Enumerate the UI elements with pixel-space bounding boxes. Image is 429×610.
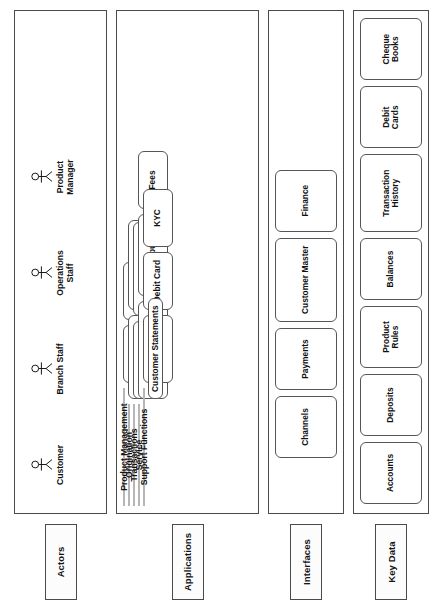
actor-0: Customer <box>31 432 66 498</box>
lane-header-applications: Applications <box>172 524 204 600</box>
actor-label: Operations Staff <box>56 240 75 306</box>
actor-stick-figure-icon <box>31 265 53 282</box>
actor-stick-figure-icon <box>31 361 53 378</box>
key-data-box[interactable]: Deposits <box>360 374 422 436</box>
actor-1: Branch Staff <box>31 336 66 402</box>
actor-stick-figure-icon <box>31 169 53 186</box>
application-group-extra-row: Customer Statements <box>148 18 163 399</box>
application-box[interactable]: Customer Statements <box>148 298 163 399</box>
key-data-box[interactable]: Cheque Books <box>360 18 422 80</box>
interface-box[interactable]: Finance <box>275 170 337 232</box>
key-data-box[interactable]: Balances <box>360 238 422 300</box>
lane-interfaces: Interfaces ChannelsPaymentsCustomer Mast… <box>268 10 344 600</box>
lane-body-applications: Product ManagementAccountsDepositsOrigin… <box>116 10 259 514</box>
actor-2: Operations Staff <box>31 240 75 306</box>
key-data-box[interactable]: Accounts <box>360 442 422 504</box>
interfaces-row: ChannelsPaymentsCustomer MasterFinance <box>275 170 337 506</box>
lane-header-key-data: Key Data <box>375 524 407 600</box>
lane-header-actors: Actors <box>45 524 77 600</box>
application-groups: Product ManagementAccountsDepositsOrigin… <box>123 18 163 506</box>
interface-box[interactable]: Payments <box>275 328 337 390</box>
lane-applications: Applications Product ManagementAccountsD… <box>116 10 259 600</box>
lane-body-interfaces: ChannelsPaymentsCustomer MasterFinance <box>268 10 344 514</box>
lane-actors: Actors CustomerBranch StaffOperations St… <box>14 10 107 600</box>
actor-3: Product Manager <box>31 144 75 210</box>
actor-label: Branch Staff <box>56 343 66 394</box>
actor-stick-figure-icon <box>31 457 53 474</box>
lane-body-key-data: AccountsDepositsProduct RulesBalancesTra… <box>353 10 429 514</box>
actors-row: CustomerBranch StaffOperations StaffProd… <box>21 144 75 506</box>
actor-label: Customer <box>56 445 66 485</box>
actor-label: Product Manager <box>56 144 75 210</box>
interface-box[interactable]: Customer Master <box>275 238 337 322</box>
lane-header-interfaces: Interfaces <box>290 524 322 600</box>
lane-body-actors: CustomerBranch StaffOperations StaffProd… <box>14 10 107 514</box>
key-data-row: AccountsDepositsProduct RulesBalancesTra… <box>360 18 422 506</box>
lane-key-data: Key Data AccountsDepositsProduct RulesBa… <box>353 10 429 600</box>
key-data-box[interactable]: Transaction History <box>360 154 422 232</box>
group-header: Support Functions <box>143 388 145 506</box>
key-data-box[interactable]: Debit Cards <box>360 86 422 148</box>
interface-box[interactable]: Channels <box>275 396 337 458</box>
interfaces-lead-spacer <box>275 464 337 504</box>
key-data-box[interactable]: Product Rules <box>360 306 422 368</box>
